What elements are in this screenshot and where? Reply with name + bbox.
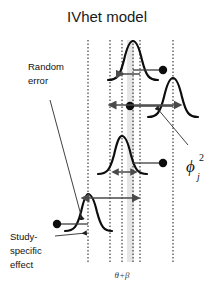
study-2-estimate-dot	[126, 102, 134, 110]
phi-glyph: ϕ	[186, 157, 195, 176]
random-error-label-line1: Random	[28, 61, 64, 72]
study-1-estimate-dot	[159, 66, 167, 74]
figure-title: IVhet model	[67, 8, 147, 25]
study-specific-label-line1: Study-	[10, 231, 37, 242]
figure-canvas: IVhet model	[0, 0, 214, 289]
phi-superscript: 2	[199, 152, 204, 163]
random-error-label-line2: error	[28, 75, 48, 86]
x-axis-label: θ+β	[115, 270, 130, 280]
study-3-estimate-dot	[159, 159, 167, 167]
study-specific-label-line3: effect	[10, 259, 33, 270]
study-specific-label-line2: specific	[10, 245, 42, 256]
study-4-estimate-dot	[53, 220, 61, 228]
